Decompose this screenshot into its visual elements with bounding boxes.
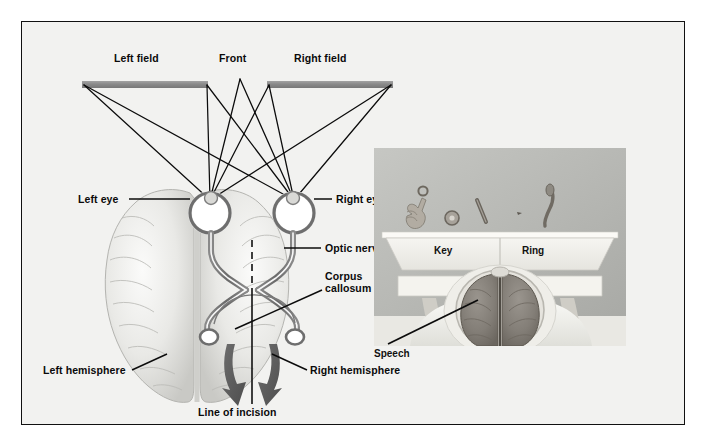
- label-speech: Speech: [374, 348, 410, 359]
- label-right-field: Right field: [294, 52, 346, 64]
- photograph: [374, 148, 626, 346]
- label-left-field: Left field: [114, 52, 159, 64]
- right-eye-lens: [287, 192, 300, 205]
- label-left-eye: Left eye: [78, 193, 118, 205]
- left-field-bar: [82, 81, 208, 88]
- experiment-photograph-panel: Key Ring Speech: [374, 148, 686, 424]
- split-brain-diagram: Left field Front Right field Left eye Ri…: [22, 22, 392, 424]
- screen-label-ring: Ring: [522, 245, 544, 256]
- screen-label-key: Key: [434, 245, 452, 256]
- label-front: Front: [219, 52, 246, 64]
- label-corpus-callosum-line1: Corpus: [325, 270, 362, 282]
- label-left-hemisphere: Left hemisphere: [43, 364, 126, 376]
- light-rays: [84, 79, 391, 200]
- figure-root: Left field Front Right field Left eye Ri…: [0, 0, 706, 446]
- right-field-bar: [267, 81, 393, 88]
- figure-frame: Left field Front Right field Left eye Ri…: [21, 21, 685, 425]
- right-geniculate-bulb: [286, 330, 304, 345]
- left-eye: [190, 192, 230, 234]
- left-eye-lens: [205, 192, 218, 205]
- label-corpus-callosum: Corpus callosum: [325, 271, 371, 294]
- label-corpus-callosum-line2: callosum: [325, 282, 371, 294]
- projection-screen: [382, 232, 618, 270]
- photograph-svg: [374, 148, 626, 346]
- ring-icon: [445, 211, 459, 225]
- label-line-of-incision: Line of incision: [198, 406, 277, 418]
- left-geniculate-bulb: [200, 330, 218, 345]
- right-eye: [274, 192, 314, 234]
